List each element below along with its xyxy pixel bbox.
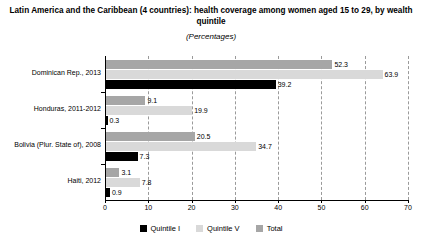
legend-label-2: Total	[267, 224, 283, 233]
x-tick-label-60: 60	[352, 204, 378, 211]
bar-3-quintV	[106, 178, 140, 187]
x-tick-label-70: 70	[395, 204, 421, 211]
x-tick-mark-40	[278, 200, 279, 203]
x-tick-label-30: 30	[222, 204, 248, 211]
bar-value-label-1-quintV: 19.9	[194, 107, 208, 114]
bar-2-total	[106, 132, 195, 141]
bar-value-label-3-total: 3.1	[121, 169, 131, 176]
category-tick-2	[101, 128, 105, 129]
x-tick-label-0: 0	[92, 204, 118, 211]
bar-value-label-0-quintI: 39.2	[278, 81, 292, 88]
bar-value-label-1-total: 9.1	[147, 97, 157, 104]
x-tick-mark-60	[365, 200, 366, 203]
legend-item-1[interactable]: Quintile V	[196, 224, 240, 233]
x-tick-label-40: 40	[265, 204, 291, 211]
category-label-0: Dominican Rep., 2013	[0, 69, 101, 76]
legend-swatch-icon-0	[140, 225, 147, 232]
bar-value-label-0-quintV: 63.9	[385, 71, 399, 78]
chart-container: Latin America and the Caribbean (4 count…	[0, 0, 422, 244]
bar-1-quintI	[106, 116, 108, 125]
chart-subtitle: (Percentages)	[0, 32, 422, 42]
bar-value-label-2-quintV: 34.7	[258, 143, 272, 150]
category-label-2: Bolivia (Plur. State of), 2008	[0, 141, 101, 148]
bar-value-label-2-total: 20.5	[197, 133, 211, 140]
legend-swatch-icon-2	[256, 225, 263, 232]
x-tick-mark-10	[148, 200, 149, 203]
gridline-70	[408, 56, 409, 200]
bar-value-label-0-total: 52.3	[334, 61, 348, 68]
bar-2-quintV	[106, 142, 256, 151]
legend-label-1: Quintile V	[207, 224, 240, 233]
chart-title: Latin America and the Caribbean (4 count…	[0, 5, 422, 27]
bar-1-total	[106, 96, 145, 105]
category-label-3: Haiti, 2012	[0, 177, 101, 184]
category-label-1: Honduras, 2011-2012	[0, 105, 101, 112]
x-tick-mark-20	[192, 200, 193, 203]
bar-0-quintV	[106, 70, 383, 79]
bar-3-quintI	[106, 188, 110, 197]
bar-value-label-3-quintV: 7.8	[142, 179, 152, 186]
legend-swatch-icon-1	[196, 225, 203, 232]
bar-value-label-2-quintI: 7.3	[140, 153, 150, 160]
title-block: Latin America and the Caribbean (4 count…	[0, 5, 422, 42]
bar-2-quintI	[106, 152, 138, 161]
bar-value-label-3-quintI: 0.9	[112, 189, 122, 196]
x-tick-label-20: 20	[179, 204, 205, 211]
x-tick-mark-70	[408, 200, 409, 203]
x-tick-mark-0	[105, 200, 106, 203]
category-tick-1	[101, 92, 105, 93]
bar-0-total	[106, 60, 332, 69]
category-tick-3	[101, 164, 105, 165]
chart-legend: Quintile IQuintile VTotal	[0, 224, 422, 233]
bar-0-quintI	[106, 80, 276, 89]
x-tick-mark-30	[235, 200, 236, 203]
bar-3-total	[106, 168, 119, 177]
legend-item-0[interactable]: Quintile I	[140, 224, 181, 233]
x-tick-label-50: 50	[308, 204, 334, 211]
x-axis-line	[105, 200, 409, 201]
x-tick-mark-50	[321, 200, 322, 203]
bar-value-label-1-quintI: 0.3	[110, 117, 120, 124]
legend-item-2[interactable]: Total	[256, 224, 283, 233]
legend-label-0: Quintile I	[151, 224, 181, 233]
x-tick-label-10: 10	[135, 204, 161, 211]
bar-1-quintV	[106, 106, 192, 115]
